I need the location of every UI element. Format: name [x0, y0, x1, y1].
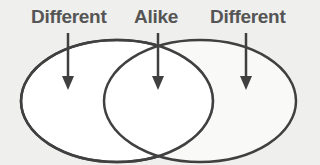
label-alike: Alike [134, 6, 178, 28]
right-circle [104, 40, 296, 162]
label-different-right: Different [210, 6, 285, 28]
label-different-left: Different [31, 6, 106, 28]
